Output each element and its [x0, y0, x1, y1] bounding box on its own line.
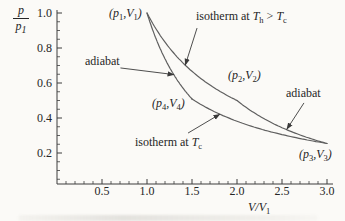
x-tick-label: 1.5	[185, 185, 200, 197]
y-tick-label: 0.2	[26, 147, 52, 159]
y-tick-label: 0.4	[26, 112, 52, 124]
carnot-cycle-figure: p p1 V/V1 (p1,V1) (p2,V2) (p3,V3) (p4,V4…	[0, 0, 345, 221]
x-tick-label: 3.0	[320, 185, 335, 197]
point-label-p2v2: (p2,V2)	[228, 69, 261, 82]
annotation-isotherm-hot: isotherm at Th > Tc	[196, 10, 287, 23]
arrow-to-isotherm-hot	[185, 28, 197, 65]
y-axis-label-denominator: p1	[16, 19, 27, 37]
x-tick-label: 2.0	[230, 185, 245, 197]
x-tick-label: 2.5	[275, 185, 290, 197]
y-tick-label: 0.8	[26, 42, 52, 54]
point-label-p1v1: (p1,V1)	[109, 7, 142, 20]
x-axis-label: V/V1	[248, 201, 270, 214]
curve-isotherm-Th	[147, 13, 237, 101]
annotation-adiabat-left: adiabat	[85, 55, 120, 68]
annotation-isotherm-cold: isotherm at Tc	[135, 136, 202, 149]
y-tick-label: 1.0	[26, 7, 52, 19]
annotation-adiabat-right: adiabat	[286, 87, 321, 100]
point-label-p3v3: (p3,V3)	[299, 148, 332, 161]
y-tick-label: 0.6	[26, 77, 52, 89]
arrow-to-adiabat-left	[120, 68, 174, 75]
scan-artifact	[18, 215, 318, 221]
arrow-to-adiabat-right	[287, 103, 304, 129]
x-tick-label: 0.5	[95, 185, 110, 197]
point-label-p4v4: (p4,V4)	[152, 97, 185, 110]
arrow-to-isotherm-cold	[188, 114, 220, 133]
x-tick-label: 1.0	[140, 185, 155, 197]
curve-adiabat-2-3	[237, 101, 327, 144]
